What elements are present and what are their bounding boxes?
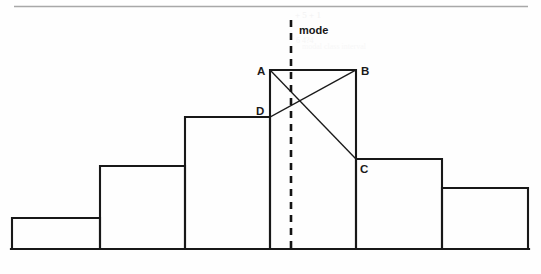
histogram-bars (12, 70, 528, 249)
diagonal-a-to-c (270, 70, 356, 159)
diagonal-d-to-b (270, 70, 356, 117)
bar-1 (12, 218, 100, 249)
mode-label: mode (299, 25, 328, 36)
vertex-label-c: C (360, 164, 368, 176)
bar-4-modal (270, 70, 356, 249)
bar-6 (442, 188, 528, 249)
figure-canvas: + 5 + 1 6 4?4 modal class interval mode … (0, 0, 541, 274)
vertex-label-d: D (256, 106, 264, 118)
bar-3 (185, 117, 270, 249)
bar-5 (356, 159, 442, 249)
vertex-label-b: B (361, 66, 369, 78)
bar-2 (100, 166, 185, 249)
vertex-label-a: A (257, 66, 265, 78)
histogram-svg (0, 0, 541, 274)
modal-bar-diagonals (270, 70, 356, 159)
